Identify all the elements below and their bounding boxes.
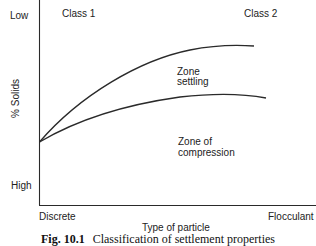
class-2-label: Class 2: [244, 8, 277, 19]
zone-compression-label-line1: Zone of: [178, 136, 212, 147]
upper-curve: [40, 45, 255, 142]
settlement-classification-diagram: Low High % Solids Class 1 Class 2 Zone s…: [0, 0, 316, 246]
zone-settling-label-line2: settling: [177, 76, 209, 87]
y-axis-title: % Solids: [10, 79, 21, 118]
x-axis-discrete-label: Discrete: [39, 211, 76, 222]
lower-curve: [40, 94, 267, 142]
zone-compression-label-line2: compression: [178, 147, 235, 158]
caption-text: Classification of settlement properties: [93, 232, 275, 246]
diagram-canvas: [0, 0, 316, 246]
y-axis-low-label: Low: [10, 10, 28, 21]
x-axis-flocculant-label: Flocculant: [268, 211, 314, 222]
class-1-label: Class 1: [62, 8, 95, 19]
caption-number: Fig. 10.1: [41, 232, 85, 246]
y-axis-high-label: High: [11, 180, 32, 191]
figure-caption: Fig. 10.1Classification of settlement pr…: [0, 232, 316, 246]
